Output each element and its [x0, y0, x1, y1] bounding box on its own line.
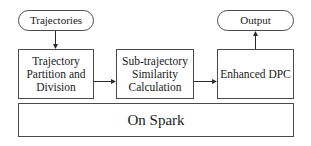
dpc-label: Enhanced DPC [220, 68, 291, 81]
on-spark-node: On Spark [18, 103, 294, 137]
similarity-label-line-3: Calculation [122, 81, 188, 94]
output-label: Output [240, 14, 271, 27]
partition-label-line-3: Division [26, 81, 85, 94]
trajectories-label: Trajectories [30, 14, 82, 27]
similarity-label-line-2: Similarity [122, 68, 188, 81]
output-node: Output [217, 10, 294, 31]
edge-trajectories-to-partition [53, 31, 58, 49]
trajectories-node: Trajectories [18, 10, 94, 31]
edge-similarity-to-dpc [194, 79, 217, 84]
similarity-calculation-node: Sub-trajectory Similarity Calculation [116, 49, 194, 99]
partition-label-line-1: Trajectory [26, 55, 85, 68]
edge-partition-to-similarity [94, 79, 116, 84]
enhanced-dpc-node: Enhanced DPC [217, 49, 294, 99]
trajectory-partition-node: Trajectory Partition and Division [18, 49, 94, 99]
partition-label-line-2: Partition and [26, 68, 85, 81]
spark-label: On Spark [127, 114, 184, 127]
edge-dpc-to-output [253, 31, 258, 49]
similarity-label-line-1: Sub-trajectory [122, 55, 188, 68]
arrowhead-up-icon [253, 31, 258, 36]
